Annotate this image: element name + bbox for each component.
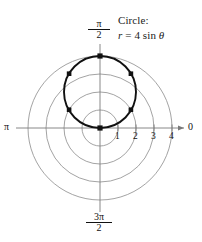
axis-label-3pi-over-2: 3π 2 — [86, 212, 112, 234]
polar-plot-figure: Circle: r = 4 sin θ π 2 3π 2 π 0 1 2 3 4 — [0, 0, 202, 242]
annotation-equation-body: = 4 sin — [122, 29, 158, 41]
curve-point-theta-30 — [129, 107, 134, 112]
axis-label-3pi-over-2-denominator: 2 — [86, 223, 112, 233]
axis-label-pi-over-2-denominator: 2 — [88, 30, 110, 40]
tick-label-2: 2 — [133, 131, 138, 141]
axis-label-zero: 0 — [188, 121, 193, 132]
annotation-title: Circle: — [118, 14, 194, 27]
tick-label-4: 4 — [169, 131, 174, 141]
curve-point-theta-60 — [129, 71, 134, 76]
curve-point-theta-150 — [67, 107, 72, 112]
tick-label-1: 1 — [115, 131, 120, 141]
annotation-equation-theta: θ — [159, 29, 165, 41]
axis-label-pi-over-2: π 2 — [88, 19, 110, 41]
curve-annotation: Circle: r = 4 sin θ — [118, 14, 194, 43]
horizontal-axis-arrowhead — [178, 125, 184, 130]
curve-point-theta-120 — [67, 71, 72, 76]
curve-point-theta-90 — [97, 53, 102, 58]
annotation-equation: r = 4 sin θ — [118, 29, 194, 42]
axis-label-pi: π — [4, 121, 9, 132]
curve-point-origin — [97, 125, 102, 130]
tick-label-3: 3 — [151, 131, 156, 141]
